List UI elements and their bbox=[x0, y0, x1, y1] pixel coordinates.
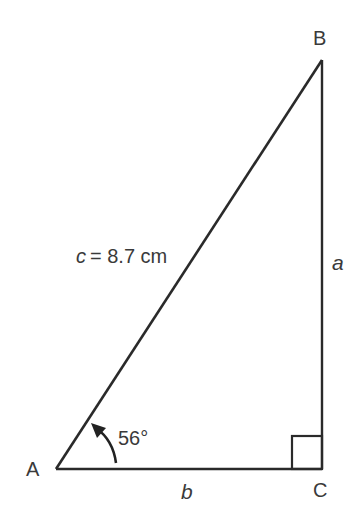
side-b-label: b bbox=[181, 480, 193, 503]
triangle-diagram: A B C c= 8.7 cm a b 56° bbox=[0, 0, 353, 527]
vertex-label-b: B bbox=[313, 27, 326, 49]
side-a-label: a bbox=[332, 251, 344, 274]
right-angle-marker bbox=[292, 436, 322, 469]
hypotenuse-label: c= 8.7 cm bbox=[76, 245, 167, 267]
vertex-label-c: C bbox=[313, 479, 327, 501]
vertex-label-a: A bbox=[26, 458, 40, 480]
hypotenuse-var: c bbox=[76, 245, 86, 267]
angle-label: 56° bbox=[118, 427, 148, 449]
hypotenuse-value: = 8.7 cm bbox=[90, 245, 167, 267]
